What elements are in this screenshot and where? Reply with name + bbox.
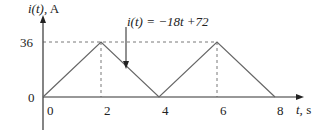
x-axis-unit: s bbox=[306, 102, 311, 117]
x-tick-0: 0 bbox=[47, 104, 54, 117]
y-tick-36: 36 bbox=[20, 36, 33, 49]
y-axis-label: i(t), A bbox=[28, 2, 59, 15]
waveform-line bbox=[43, 42, 275, 97]
x-tick-4: 4 bbox=[162, 104, 169, 117]
y-axis-unit: A bbox=[50, 1, 59, 16]
x-axis-var: t, bbox=[296, 102, 303, 117]
x-tick-2: 2 bbox=[104, 104, 111, 117]
y-axis-arrow-icon bbox=[40, 15, 46, 23]
y-axis-var: i(t), bbox=[28, 1, 47, 16]
x-tick-8: 8 bbox=[277, 104, 284, 117]
x-axis-label: t, s bbox=[296, 103, 311, 116]
x-axis-arrow-icon bbox=[296, 94, 304, 100]
annotation-label: i(t) = −18t +72 bbox=[127, 15, 209, 28]
x-tick-6: 6 bbox=[220, 104, 227, 117]
y-tick-0: 0 bbox=[28, 91, 35, 104]
